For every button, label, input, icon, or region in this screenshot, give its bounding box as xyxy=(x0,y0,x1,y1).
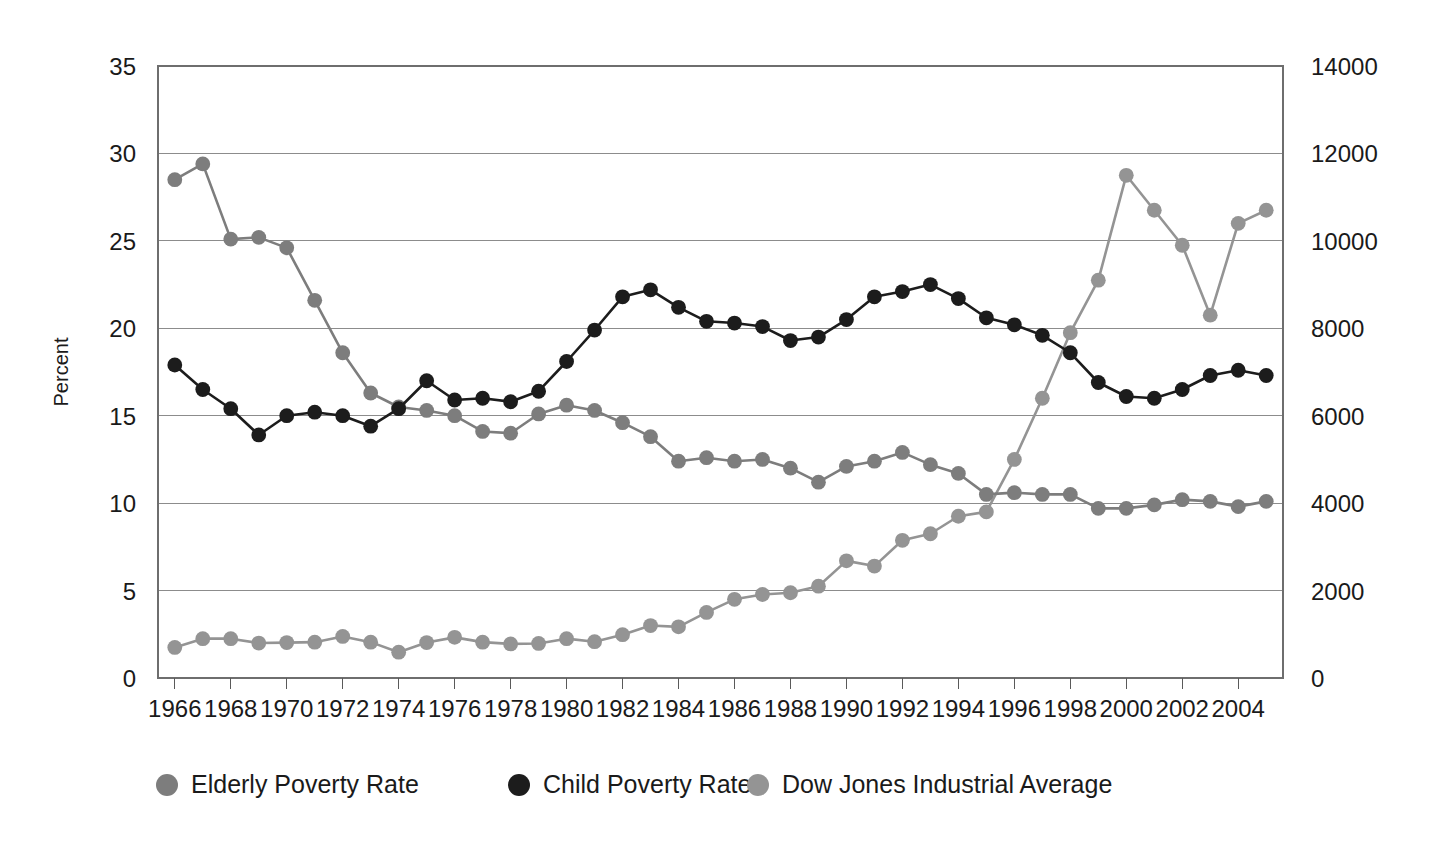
y-tick-label-left: 30 xyxy=(109,140,136,167)
legend-swatch-icon xyxy=(508,774,530,796)
x-tick-label: 1990 xyxy=(820,695,873,722)
data-point-marker xyxy=(335,345,350,360)
data-point-marker xyxy=(1203,494,1218,509)
series-child-poverty-rate xyxy=(167,277,1273,442)
x-axis-tickmarks xyxy=(175,678,1238,689)
data-point-marker xyxy=(503,394,518,409)
data-point-marker xyxy=(1063,345,1078,360)
y-tick-label-left: 20 xyxy=(109,315,136,342)
data-point-marker xyxy=(755,319,770,334)
data-point-marker xyxy=(587,323,602,338)
data-point-marker xyxy=(867,559,882,574)
data-point-marker xyxy=(1063,487,1078,502)
data-point-marker xyxy=(363,419,378,434)
legend-item[interactable]: Elderly Poverty Rate xyxy=(156,770,419,798)
legend-label: Child Poverty Rate xyxy=(543,770,751,798)
data-point-marker xyxy=(727,316,742,331)
data-point-marker xyxy=(587,634,602,649)
data-point-marker xyxy=(839,553,854,568)
x-tick-label: 1992 xyxy=(876,695,929,722)
data-point-marker xyxy=(1091,375,1106,390)
data-point-marker xyxy=(559,631,574,646)
data-point-marker xyxy=(1119,389,1134,404)
data-point-marker xyxy=(811,579,826,594)
x-tick-label: 2002 xyxy=(1156,695,1209,722)
data-point-marker xyxy=(475,424,490,439)
data-point-marker xyxy=(223,401,238,416)
data-point-marker xyxy=(223,631,238,646)
data-point-marker xyxy=(1259,203,1274,218)
data-point-marker xyxy=(307,635,322,650)
data-point-marker xyxy=(1147,203,1162,218)
data-point-marker xyxy=(755,587,770,602)
y-axis-right-tick-labels: 02000400060008000100001200014000 xyxy=(1311,53,1378,692)
data-point-marker xyxy=(335,408,350,423)
y-axis-left-tick-labels: 05101520253035 xyxy=(109,53,136,692)
y-axis-title-text: Percent xyxy=(50,337,72,406)
chart-legend: Elderly Poverty RateChild Poverty RateDo… xyxy=(156,770,1112,798)
data-point-marker xyxy=(195,382,210,397)
data-point-marker xyxy=(643,618,658,633)
y-tick-label-left: 25 xyxy=(109,228,136,255)
data-point-marker xyxy=(951,291,966,306)
data-point-marker xyxy=(783,461,798,476)
data-point-marker xyxy=(419,403,434,418)
legend-swatch-icon xyxy=(156,774,178,796)
data-point-marker xyxy=(699,314,714,329)
data-point-marker xyxy=(727,454,742,469)
data-point-marker xyxy=(1007,452,1022,467)
data-point-marker xyxy=(1007,485,1022,500)
legend-item[interactable]: Dow Jones Industrial Average xyxy=(747,770,1112,798)
data-point-marker xyxy=(671,619,686,634)
data-point-marker xyxy=(475,391,490,406)
x-tick-label: 1994 xyxy=(932,695,985,722)
x-tick-label: 1982 xyxy=(596,695,649,722)
data-point-marker xyxy=(615,627,630,642)
y-tick-label-right: 6000 xyxy=(1311,403,1364,430)
data-point-marker xyxy=(1231,363,1246,378)
data-point-marker xyxy=(167,172,182,187)
x-tick-label: 2000 xyxy=(1100,695,1153,722)
data-point-marker xyxy=(951,466,966,481)
data-point-marker xyxy=(923,526,938,541)
y-tick-label-right: 2000 xyxy=(1311,578,1364,605)
data-point-marker xyxy=(363,635,378,650)
data-point-marker xyxy=(979,487,994,502)
data-point-marker xyxy=(1203,308,1218,323)
data-point-marker xyxy=(1231,216,1246,231)
data-point-marker xyxy=(951,509,966,524)
data-point-marker xyxy=(223,232,238,247)
series-line xyxy=(175,164,1266,508)
data-point-marker xyxy=(1147,391,1162,406)
plot-frame xyxy=(158,66,1283,678)
data-point-marker xyxy=(755,452,770,467)
legend-item[interactable]: Child Poverty Rate xyxy=(508,770,751,798)
data-point-marker xyxy=(419,373,434,388)
data-point-marker xyxy=(307,293,322,308)
data-point-marker xyxy=(727,592,742,607)
x-tick-label: 1970 xyxy=(260,695,313,722)
data-point-marker xyxy=(643,282,658,297)
data-point-marker xyxy=(195,157,210,172)
data-point-marker xyxy=(475,635,490,650)
x-tick-label: 1986 xyxy=(708,695,761,722)
data-point-marker xyxy=(1175,492,1190,507)
data-point-marker xyxy=(1007,317,1022,332)
y-tick-label-right: 12000 xyxy=(1311,140,1378,167)
data-point-marker xyxy=(615,289,630,304)
data-point-marker xyxy=(1091,501,1106,516)
data-point-marker xyxy=(643,429,658,444)
data-point-marker xyxy=(1175,238,1190,253)
data-series xyxy=(167,157,1273,660)
data-point-marker xyxy=(1063,325,1078,340)
data-point-marker xyxy=(167,358,182,373)
y-tick-label-right: 8000 xyxy=(1311,315,1364,342)
data-point-marker xyxy=(811,475,826,490)
x-tick-label: 1988 xyxy=(764,695,817,722)
data-point-marker xyxy=(363,386,378,401)
y-tick-label-right: 10000 xyxy=(1311,228,1378,255)
data-point-marker xyxy=(1259,494,1274,509)
data-point-marker xyxy=(531,636,546,651)
legend-label: Dow Jones Industrial Average xyxy=(782,770,1112,798)
x-tick-label: 1966 xyxy=(148,695,201,722)
